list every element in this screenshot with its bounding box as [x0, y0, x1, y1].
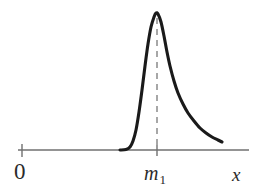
plot-area — [0, 0, 259, 194]
mode-label-base: m — [144, 162, 158, 184]
mode-label-subscript: 1 — [159, 172, 166, 187]
origin-label: 0 — [14, 160, 26, 183]
x-axis-label: x — [232, 165, 240, 184]
density-curve-path — [120, 13, 222, 150]
mode-label: m1 — [144, 163, 166, 186]
density-curve-figure: 0 m1 x — [0, 0, 259, 194]
